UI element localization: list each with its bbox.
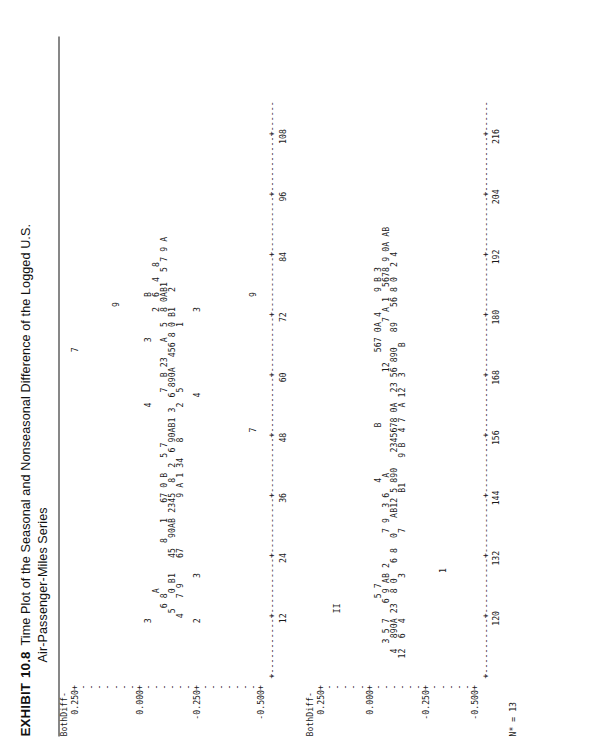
y-tick-label: -0.500+ [256, 685, 264, 720]
plot-symbol: 1 [397, 392, 405, 397]
plot-symbol: 0 [389, 276, 397, 281]
x-axis-segment: - [481, 407, 489, 412]
plot-symbol: 1 [397, 653, 405, 658]
x-axis-segment: - [481, 653, 489, 658]
x-axis-segment: - [481, 282, 489, 287]
x-axis-segment: - [481, 236, 489, 241]
x-axis-segment: - [481, 558, 489, 563]
plot-symbol: 7 [397, 417, 405, 422]
x-axis-segment: - [267, 522, 275, 527]
y-axis-tick: - [183, 684, 191, 689]
exhibit-number: 10.8 [17, 651, 32, 677]
x-axis-segment: - [267, 452, 275, 457]
x-tick-label: 144 [491, 490, 499, 505]
x-axis-tick: + [267, 372, 275, 377]
x-axis-segment: - [481, 568, 489, 573]
x-axis-segment: - [267, 101, 275, 106]
x-axis-segment: - [481, 206, 489, 211]
plot-symbol: 7 [159, 256, 167, 261]
plot-symbol: 8 [389, 548, 397, 553]
x-axis-segment: - [267, 126, 275, 131]
x-axis-segment: - [267, 392, 275, 397]
plot-symbol: 2 [175, 402, 183, 407]
exhibit-page: EXHIBIT10.8Time Plot of the Seasonal and… [0, 0, 597, 754]
plot-symbol: 8 [175, 437, 183, 442]
x-axis-segment: - [481, 573, 489, 578]
plot-symbol: 7 [389, 422, 397, 427]
plot-symbol: 6 [175, 553, 183, 558]
plot-symbol: 4 [373, 312, 381, 317]
x-axis-segment: - [481, 668, 489, 673]
plot-symbol: 4 [175, 457, 183, 462]
x-axis-tick: + [481, 372, 489, 377]
plot-symbol: 8 [389, 327, 397, 332]
y-axis-name: BothDiff- [305, 692, 313, 736]
x-axis-tick: + [481, 492, 489, 497]
plot-symbol: I [332, 603, 340, 608]
plot-symbol: 5 [159, 266, 167, 271]
plot-symbol: 3 [389, 603, 397, 608]
plot-symbol: 0 [167, 588, 175, 593]
x-axis-segment: - [481, 211, 489, 216]
x-axis-segment: - [267, 342, 275, 347]
plot-symbol: 0 [389, 533, 397, 538]
plot-symbol: 8 [389, 287, 397, 292]
x-axis-segment: - [267, 507, 275, 512]
x-axis-segment: - [481, 337, 489, 342]
exhibit-caption: EXHIBIT10.8Time Plot of the Seasonal and… [16, 36, 51, 736]
plot-symbol: 5 [381, 282, 389, 287]
plot-symbol: B [167, 312, 175, 317]
plot-symbol: 3 [381, 638, 389, 643]
plot-symbol: B [159, 472, 167, 477]
plot-symbol: 8 [167, 332, 175, 337]
x-axis-segment: - [267, 548, 275, 553]
x-axis-segment: - [267, 106, 275, 111]
x-axis-segment: - [481, 517, 489, 522]
x-axis-segment: - [481, 186, 489, 191]
plot-symbol: B [397, 442, 405, 447]
x-axis-segment: - [267, 322, 275, 327]
x-axis-segment: - [267, 563, 275, 568]
x-axis-segment: - [481, 643, 489, 648]
x-axis-segment: - [267, 578, 275, 583]
exhibit-label: EXHIBIT [17, 682, 32, 736]
x-axis-segment: - [267, 623, 275, 628]
x-tick-label: 60 [278, 372, 286, 382]
plot-symbol: 7 [373, 583, 381, 588]
plot-symbol: A [381, 231, 389, 236]
plot-symbol: 6 [389, 297, 397, 302]
x-axis-segment: - [267, 568, 275, 573]
x-axis-segment: - [267, 337, 275, 342]
x-axis-tick: + [481, 191, 489, 196]
x-axis-segment: - [267, 231, 275, 236]
x-axis-segment: - [481, 502, 489, 507]
x-axis-segment: - [267, 327, 275, 332]
plot-symbol: 0 [381, 246, 389, 251]
plot-symbol: 0 [373, 327, 381, 332]
x-axis-tick: + [267, 492, 275, 497]
x-axis-segment: - [267, 151, 275, 156]
plot-symbol: 8 [389, 588, 397, 593]
x-tick-label: 72 [278, 312, 286, 322]
x-axis-segment: - [481, 422, 489, 427]
x-axis-segment: - [481, 658, 489, 663]
exhibit-title-line-2: Air-Passenger-Miles Series [34, 36, 51, 662]
plot-symbol: 3 [143, 337, 151, 342]
plot-symbol: 2 [389, 497, 397, 502]
x-tick-label: 168 [491, 370, 499, 385]
x-axis-segment: - [481, 352, 489, 357]
plot-symbol: 3 [143, 618, 151, 623]
plot-symbol: 1 [175, 322, 183, 327]
y-axis-tick: - [348, 684, 356, 689]
plot-symbol: A [381, 307, 389, 312]
x-axis-tick: + [267, 432, 275, 437]
x-axis-segment: - [267, 276, 275, 281]
plot-symbol: A [397, 402, 405, 407]
plot-symbol: A [159, 292, 167, 297]
plot-symbol: 0 [389, 347, 397, 352]
plot-symbol: 3 [159, 357, 167, 362]
x-axis-segment: - [267, 648, 275, 653]
plot-symbol: 9 [248, 292, 256, 297]
x-axis-tick: + [267, 553, 275, 558]
x-axis-segment: - [481, 487, 489, 492]
